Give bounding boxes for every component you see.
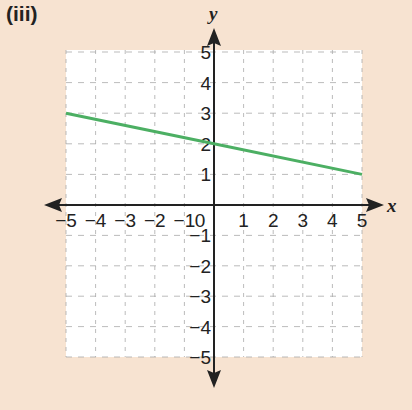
x-tick-label: 4 (327, 210, 338, 231)
y-tick-label: −1 (189, 225, 211, 246)
x-tick-label: 2 (268, 210, 279, 231)
x-tick-label: −4 (85, 210, 107, 231)
y-tick-label: −5 (189, 347, 211, 368)
x-tick-label: −2 (144, 210, 166, 231)
y-tick-label: 5 (200, 42, 211, 63)
y-tick-label: −4 (189, 317, 211, 338)
y-tick-label: 4 (200, 73, 211, 94)
y-tick-label: 1 (200, 164, 211, 185)
x-tick-label: 3 (298, 210, 309, 231)
x-axis-label: x (386, 195, 397, 216)
x-tick-label: 5 (357, 210, 368, 231)
x-tick-label: −5 (55, 210, 77, 231)
y-axis-label: y (207, 3, 218, 24)
y-tick-label: 3 (200, 103, 211, 124)
x-tick-label: 1 (238, 210, 249, 231)
y-tick-label: −3 (189, 286, 211, 307)
x-tick-label: −3 (114, 210, 136, 231)
y-tick-label: −2 (189, 256, 211, 277)
line-chart: xy−5−4−3−2−1012345−5−4−3−2−112345 (0, 0, 412, 410)
